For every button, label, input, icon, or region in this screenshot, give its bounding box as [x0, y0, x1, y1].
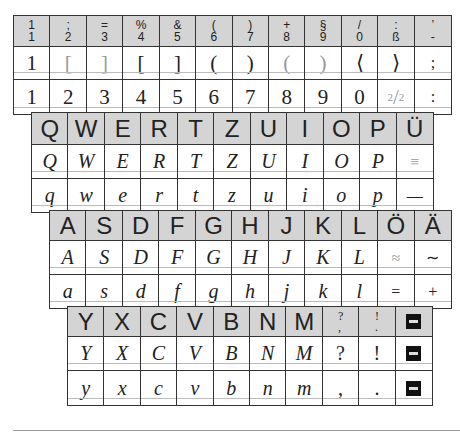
key-header: M [286, 307, 322, 337]
key-cell: ( [269, 47, 305, 80]
key-cell: K [305, 241, 341, 275]
key-cell: q [32, 179, 68, 212]
key-cell: X [104, 337, 140, 371]
key-cell: g [196, 275, 232, 308]
enter-key-cell [396, 371, 432, 405]
enter-key-icon [406, 381, 421, 396]
key-header: ’- [415, 16, 451, 47]
key-cell: R [141, 145, 177, 179]
key-cell: M [286, 337, 322, 371]
key-cell: ] [160, 47, 196, 80]
key-cell: b [214, 371, 250, 405]
enter-key-header [396, 307, 432, 337]
key-header: ;2 [50, 16, 86, 47]
key-cell: J [269, 241, 305, 275]
key-cell: Y [68, 337, 104, 371]
key-cell: h [232, 275, 268, 308]
key-cell: 8 [269, 80, 305, 114]
key-header: Q [32, 113, 68, 145]
key-header: D [123, 211, 159, 241]
key-cell: — [397, 179, 433, 212]
key-header: H [232, 211, 268, 241]
key-cell: 9 [305, 80, 341, 114]
key-cell: 1 [14, 80, 50, 114]
key-cell: z [214, 179, 250, 212]
key-cell: i [287, 179, 323, 212]
key-header: 11 [14, 16, 50, 47]
key-cell: [ [123, 47, 159, 80]
q-header-row: Q W E R T Z U I O P Ü [32, 113, 433, 145]
key-cell: 3 [87, 80, 123, 114]
key-cell: ] [87, 47, 123, 80]
enter-key-cell [396, 337, 432, 371]
key-cell: 0 [342, 80, 378, 114]
key-header: X [104, 307, 140, 337]
key-cell: , [323, 371, 359, 405]
key-cell: P [360, 145, 396, 179]
key-cell: W [68, 145, 104, 179]
key-cell: ∼ [415, 241, 451, 275]
key-header: (6 [196, 16, 232, 47]
key-cell: D [123, 241, 159, 275]
a-lower-row: a s d f g h j k l = + [50, 275, 451, 308]
key-cell: ? [323, 337, 359, 371]
key-cell: x [104, 371, 140, 405]
key-cell: C [141, 337, 177, 371]
key-header: Ü [397, 113, 433, 145]
key-header: C [141, 307, 177, 337]
key-cell: B [214, 337, 250, 371]
key-cell: Z [214, 145, 250, 179]
key-cell: r [141, 179, 177, 212]
key-header: S [86, 211, 122, 241]
key-cell: E [105, 145, 141, 179]
key-cell: L [342, 241, 378, 275]
key-cell: S [86, 241, 122, 275]
key-header: Z [214, 113, 250, 145]
key-cell: A [50, 241, 86, 275]
key-cell: G [196, 241, 232, 275]
key-header: J [269, 211, 305, 241]
key-header: ! . [359, 307, 395, 337]
key-header: +8 [269, 16, 305, 47]
y-header-row: Y X C V B N M ? , ! . [68, 307, 432, 337]
key-header: L [342, 211, 378, 241]
key-header: %4 [123, 16, 159, 47]
key-header: R [141, 113, 177, 145]
key-cell: ⟩ [378, 47, 414, 80]
key-cell: a [50, 275, 86, 308]
key-cell: n [250, 371, 286, 405]
key-header: Ä [415, 211, 451, 241]
key-cell: 6 [196, 80, 232, 114]
key-header: Y [68, 307, 104, 337]
key-cell: U [251, 145, 287, 179]
number-plain-row: 1 2 3 4 5 6 7 8 9 0 2/2 : [14, 80, 451, 114]
key-cell: V [177, 337, 213, 371]
key-cell: ≡ [397, 145, 433, 179]
key-cell: e [105, 179, 141, 212]
key-cell: l [342, 275, 378, 308]
key-header: F [159, 211, 195, 241]
key-header: O [324, 113, 360, 145]
key-cell: 2 [50, 80, 86, 114]
key-cell: v [177, 371, 213, 405]
key-cell: . [359, 371, 395, 405]
key-cell: 4 [123, 80, 159, 114]
key-cell: = [378, 275, 414, 308]
number-header-row: 11 ;2 =3 %4 &5 (6 )7 +8 §9 /0 :ß ’- [14, 16, 451, 47]
key-header: G [196, 211, 232, 241]
key-header: K [305, 211, 341, 241]
key-cell: y [68, 371, 104, 405]
y-upper-row: Y X C V B N M ? ! [68, 337, 432, 371]
a-block: A S D F G H J K L Ö Ä A S D F G H J K L … [49, 210, 452, 309]
key-header: Ö [378, 211, 414, 241]
key-cell: 1 [14, 47, 50, 80]
key-cell: s [86, 275, 122, 308]
enter-key-icon [406, 346, 421, 361]
key-header: I [287, 113, 323, 145]
number-block: 11 ;2 =3 %4 &5 (6 )7 +8 §9 /0 :ß ’- 1 [ … [13, 15, 452, 115]
key-header: E [105, 113, 141, 145]
key-cell: k [305, 275, 341, 308]
key-cell: t [178, 179, 214, 212]
key-cell: Q [32, 145, 68, 179]
key-cell: ⟨ [342, 47, 378, 80]
